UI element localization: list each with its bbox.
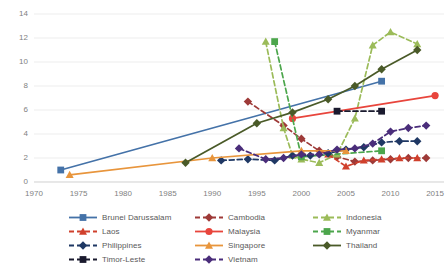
x-tick-label: 1990 (195, 189, 229, 198)
chart-legend: Brunei DarussalamCambodiaIndonesiaLaosMa… (0, 206, 448, 268)
data-point (387, 28, 395, 35)
series-malaysia (289, 92, 439, 122)
legend-swatch-icon (68, 254, 98, 265)
legend-swatch-icon (194, 226, 224, 237)
legend-item-label: Singapore (228, 240, 265, 251)
y-tick-label: 0 (6, 177, 28, 186)
data-point (323, 241, 331, 249)
y-tick-label: 14 (6, 9, 28, 18)
series-line (293, 96, 436, 119)
data-point (377, 65, 385, 73)
legend-item-label: Indonesia (346, 212, 381, 223)
y-tick-label: 10 (6, 57, 28, 66)
legend-item-label: Malaysia (228, 226, 260, 237)
series-timor-leste (334, 108, 385, 115)
plot-canvas (0, 0, 448, 205)
data-point (378, 78, 385, 85)
legend-item-malaysia[interactable]: Malaysia (194, 224, 312, 238)
legend-item-label: Vietnam (228, 254, 258, 265)
data-point (378, 108, 385, 115)
legend-swatch-icon (194, 212, 224, 223)
data-point (324, 228, 331, 235)
legend-item-cambodia[interactable]: Cambodia (194, 210, 312, 224)
data-point (404, 124, 412, 132)
legend-swatch-icon (194, 240, 224, 251)
legend-swatch-icon (312, 240, 342, 251)
y-tick-label: 12 (6, 33, 28, 42)
line-chart: 02468101214 1970197519801985199019952000… (0, 0, 448, 268)
legend-item-label: Myanmar (346, 226, 380, 237)
legend-swatch-icon (68, 212, 98, 223)
legend-item-singapore[interactable]: Singapore (194, 238, 312, 252)
data-point (57, 167, 64, 174)
legend-swatch-icon (68, 226, 98, 237)
y-tick-label: 2 (6, 153, 28, 162)
legend-item-label: Philippines (102, 240, 142, 251)
data-point (205, 213, 213, 221)
x-tick-label: 1995 (240, 189, 274, 198)
data-point (378, 147, 385, 154)
legend-swatch-icon (194, 254, 224, 265)
y-tick-label: 4 (6, 129, 28, 138)
x-tick-label: 1980 (106, 189, 140, 198)
y-tick-label: 8 (6, 81, 28, 90)
data-point (271, 38, 278, 45)
data-point (431, 92, 438, 99)
data-point (205, 255, 213, 263)
data-point (306, 151, 314, 159)
x-tick-label: 2000 (284, 189, 318, 198)
y-tick-label: 6 (6, 105, 28, 114)
legend-item-label: Cambodia (228, 212, 265, 223)
data-point (334, 108, 341, 115)
data-point (351, 114, 359, 121)
legend-item-philippines[interactable]: Philippines (68, 238, 194, 252)
x-tick-label: 1975 (62, 189, 96, 198)
legend-item-laos[interactable]: Laos (68, 224, 194, 238)
legend-item-thailand[interactable]: Thailand (312, 238, 442, 252)
data-point (79, 241, 87, 249)
legend-item-indonesia[interactable]: Indonesia (312, 210, 442, 224)
series-singapore (66, 147, 350, 178)
data-point (422, 154, 430, 162)
series-indonesia (262, 28, 422, 166)
legend-item-myanmar[interactable]: Myanmar (312, 224, 442, 238)
legend-item-label: Laos (102, 226, 120, 237)
data-point (253, 119, 261, 127)
legend-swatch-icon (312, 212, 342, 223)
legend-swatch-icon (68, 240, 98, 251)
legend-item-brunei-darussalam[interactable]: Brunei Darussalam (68, 210, 194, 224)
x-tick-label: 2005 (329, 189, 363, 198)
data-point (270, 156, 278, 164)
data-point (279, 154, 287, 162)
data-point (235, 144, 243, 152)
data-point (422, 121, 430, 129)
data-point (244, 155, 252, 163)
data-point (395, 137, 403, 145)
legend-item-label: Thailand (346, 240, 377, 251)
data-point (262, 38, 270, 45)
x-tick-label: 2010 (374, 189, 408, 198)
data-point (288, 108, 296, 116)
legend-item-label: Timor-Leste (102, 254, 145, 265)
x-tick-label: 1970 (17, 189, 51, 198)
x-tick-label: 2015 (418, 189, 448, 198)
legend-item-timor-leste[interactable]: Timor-Leste (68, 252, 194, 266)
data-point (368, 139, 376, 147)
data-point (205, 227, 212, 234)
x-tick-label: 1985 (151, 189, 185, 198)
legend-item-label: Brunei Darussalam (102, 212, 171, 223)
plot-area: 02468101214 1970197519801985199019952000… (0, 0, 448, 205)
data-point (351, 144, 359, 152)
legend-grid: Brunei DarussalamCambodiaIndonesiaLaosMa… (68, 210, 442, 266)
data-point (80, 214, 87, 221)
data-point (262, 155, 270, 163)
data-point (80, 256, 87, 263)
legend-swatch-icon (312, 226, 342, 237)
data-point (413, 137, 421, 145)
series-line (328, 154, 417, 166)
data-point (181, 159, 189, 167)
legend-item-vietnam[interactable]: Vietnam (194, 252, 312, 266)
